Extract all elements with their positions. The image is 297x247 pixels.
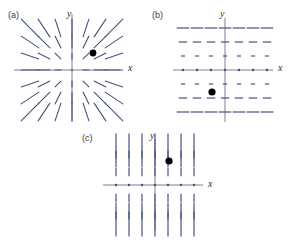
field-dot-c xyxy=(115,184,118,187)
marker-dot-c xyxy=(165,157,172,164)
y-axis-label-c: y xyxy=(150,130,154,141)
field-dot-c xyxy=(128,184,131,187)
field-dot-c xyxy=(167,184,170,187)
field-dot-c xyxy=(193,184,196,187)
field-dot-c xyxy=(154,184,157,187)
panel-label-c: (c) xyxy=(82,133,93,143)
field-dot-c xyxy=(141,184,144,187)
panel-c xyxy=(0,0,297,247)
vector-field-figure: (a)xy(b)xy(c)xy xyxy=(0,0,297,247)
x-axis-label-c: x xyxy=(208,178,212,189)
field-dot-c xyxy=(180,184,183,187)
